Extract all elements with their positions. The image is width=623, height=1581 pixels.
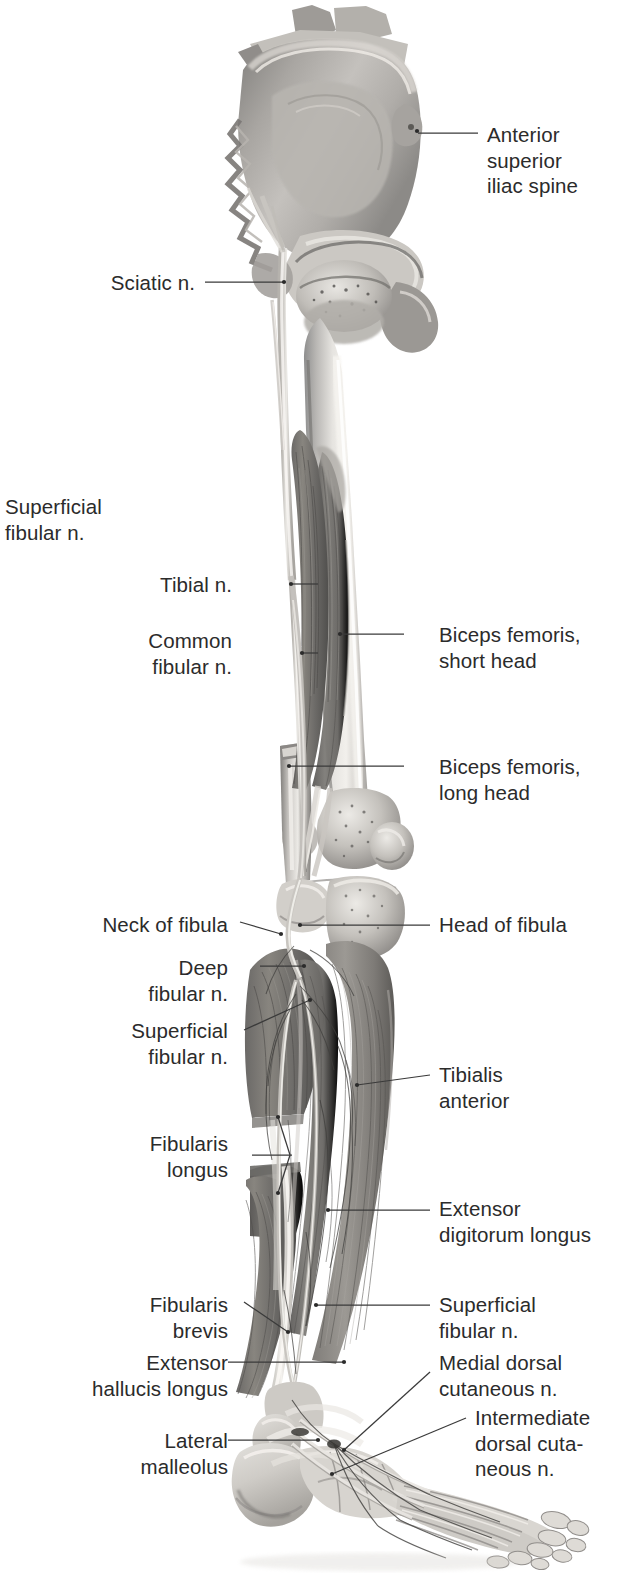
- label-neck-of-fibula: Neck of fibula: [48, 912, 228, 938]
- anatomical-plate: Anterior superior iliac spine Sciatic n.…: [0, 0, 623, 1581]
- label-anterior-superior-iliac-spine: Anterior superior iliac spine: [487, 122, 578, 199]
- label-extensor-digitorum-longus: Extensor digitorum longus: [439, 1196, 591, 1247]
- label-extensor-hallucis-longus: Extensor hallucis longus: [38, 1350, 228, 1401]
- label-sciatic-n: Sciatic n.: [55, 270, 195, 296]
- label-superficial-fibular-n-upper: Superficial fibular n.: [5, 494, 102, 545]
- label-biceps-femoris-long-head: Biceps femoris, long head: [439, 754, 581, 805]
- label-common-fibular-n: Common fibular n.: [92, 628, 232, 679]
- label-head-of-fibula: Head of fibula: [439, 912, 567, 938]
- lower-leg-group: [236, 876, 405, 1398]
- label-medial-dorsal-cutaneous-n: Medial dorsal cutaneous n.: [439, 1350, 562, 1401]
- label-deep-fibular-n: Deep fibular n.: [88, 955, 228, 1006]
- label-tibialis-anterior: Tibialis anterior: [439, 1062, 509, 1113]
- label-fibularis-longus: Fibularis longus: [98, 1131, 228, 1182]
- pelvis-group: [228, 5, 438, 353]
- label-intermediate-dorsal-cutaneous-n: Intermediate dorsal cuta- neous n.: [475, 1405, 590, 1482]
- label-superficial-fibular-n-leg: Superficial fibular n.: [78, 1018, 228, 1069]
- label-fibularis-brevis: Fibularis brevis: [98, 1292, 228, 1343]
- label-biceps-femoris-short-head: Biceps femoris, short head: [439, 622, 581, 673]
- label-lateral-malleolus: Lateral malleolus: [88, 1428, 228, 1479]
- label-tibial-n: Tibial n.: [92, 572, 232, 598]
- label-superficial-fibular-n-ankle: Superficial fibular n.: [439, 1292, 536, 1343]
